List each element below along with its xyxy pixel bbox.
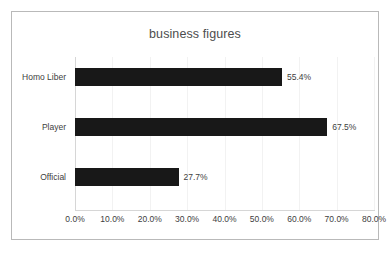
- bar-value-label: 55.4%: [282, 68, 311, 86]
- chart-frame: business figures Homo Liber55.4%Player67…: [11, 11, 379, 240]
- bar-row: Homo Liber55.4%: [75, 57, 374, 107]
- x-tick-label: 80.0%: [344, 214, 390, 224]
- bar-value-label: 27.7%: [179, 168, 208, 186]
- x-axis-tick-labels: 0.0%10.0%20.0%30.0%40.0%50.0%60.0%70.0%8…: [75, 214, 374, 230]
- category-label: Official: [40, 168, 66, 186]
- category-label: Homo Liber: [22, 68, 66, 86]
- bar[interactable]: [75, 168, 179, 186]
- bar[interactable]: [75, 118, 327, 136]
- gridline-80-0%: [374, 57, 375, 210]
- category-label: Player: [42, 118, 66, 136]
- bar-row: Official27.7%: [75, 157, 374, 207]
- bar[interactable]: [75, 68, 282, 86]
- plot-area: Homo Liber55.4%Player67.5%Official27.7%: [75, 57, 374, 210]
- chart-title: business figures: [12, 27, 378, 41]
- bar-row: Player67.5%: [75, 107, 374, 157]
- x-axis-line: [75, 210, 375, 211]
- bar-value-label: 67.5%: [327, 118, 356, 136]
